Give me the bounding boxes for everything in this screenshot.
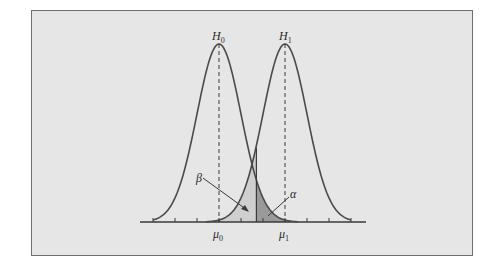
- h1-label: H1: [278, 29, 292, 45]
- h1-curve: [206, 44, 351, 222]
- h0-label: H0: [211, 29, 225, 45]
- alpha-label: α: [290, 187, 297, 201]
- shaded-areas: [206, 146, 298, 223]
- alpha-pointer-line: [268, 197, 289, 216]
- mu0-label: μ0: [212, 227, 223, 243]
- beta-label: β: [195, 171, 202, 185]
- beta-pointer-arrow: [203, 178, 247, 210]
- hypothesis-test-diagram: H0 H1 μ0 μ1 β α: [0, 0, 494, 267]
- mu1-label: μ1: [278, 227, 289, 243]
- beta-region: [206, 146, 257, 223]
